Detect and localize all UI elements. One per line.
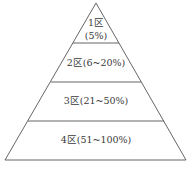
tier-3: 3区(21~50%) xyxy=(64,95,129,106)
pyramid-diagram: 1区 (5%) 2区(6~20%) 3区(21~50%) 4区(51~100%) xyxy=(0,0,190,170)
tier-4-label: 4区(51~100%) xyxy=(61,134,132,145)
tier-2: 2区(6~20%) xyxy=(67,57,126,68)
tier-1-range-label: (5%) xyxy=(85,30,107,41)
tier-1-zone-label: 1区 xyxy=(88,17,104,28)
tier-4: 4区(51~100%) xyxy=(61,134,132,145)
tier-2-label: 2区(6~20%) xyxy=(67,57,126,68)
tier-3-label: 3区(21~50%) xyxy=(64,95,129,106)
